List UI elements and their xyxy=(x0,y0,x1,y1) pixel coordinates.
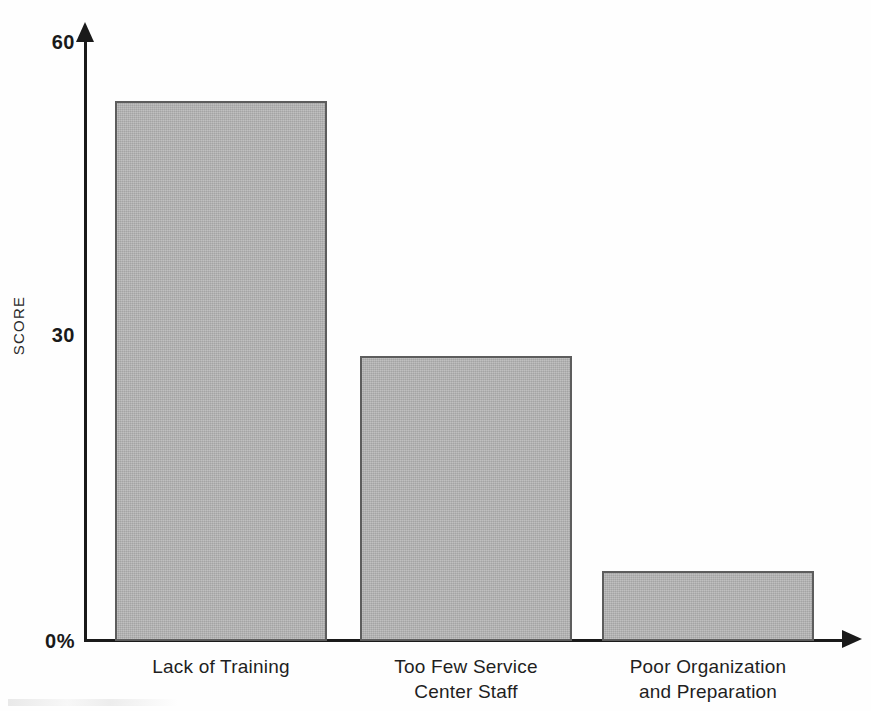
bar xyxy=(602,571,814,641)
scan-artifact xyxy=(8,699,178,706)
x-category-label: Too Few Service Center Staff xyxy=(336,654,596,704)
x-category-label: Lack of Training xyxy=(91,654,351,679)
plot-area: Lack of TrainingToo Few Service Center S… xyxy=(0,0,871,711)
bar xyxy=(115,101,327,641)
x-category-label: Poor Organization and Preparation xyxy=(578,654,838,704)
bar xyxy=(360,356,572,641)
bar-chart: SCORE 60 30 0% Lack of TrainingToo Few S… xyxy=(0,0,871,711)
